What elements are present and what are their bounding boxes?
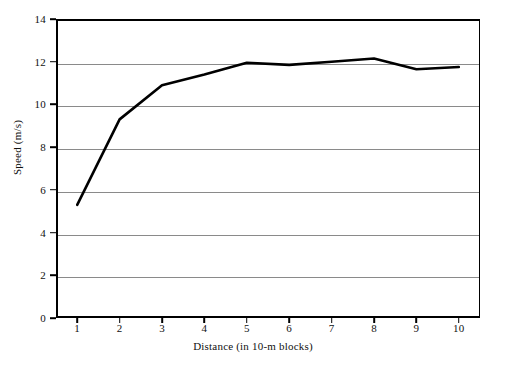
x-tick-mark-2	[119, 318, 121, 323]
x-tick-mark-7	[331, 318, 333, 323]
x-tick-mark-8	[373, 318, 375, 323]
x-tick-label-6: 6	[286, 322, 292, 334]
x-tick-mark-6	[288, 318, 290, 323]
x-tick-mark-10	[458, 318, 460, 323]
x-tick-label-10: 10	[453, 322, 464, 334]
x-tick-label-7: 7	[329, 322, 335, 334]
x-tick-mark-3	[161, 318, 163, 323]
x-tick-label-4: 4	[202, 322, 208, 334]
x-tick-mark-5	[246, 318, 248, 323]
x-tick-label-8: 8	[371, 322, 377, 334]
chart-screenshot: 02468101214 Speed (m/s) 12345678910 Dist…	[0, 0, 506, 365]
x-tick-label-9: 9	[414, 322, 420, 334]
x-tick-label-3: 3	[159, 322, 165, 334]
x-tick-label-1: 1	[74, 322, 80, 334]
x-tick-mark-1	[76, 318, 78, 323]
x-axis: 12345678910	[0, 0, 506, 365]
x-tick-label-2: 2	[117, 322, 123, 334]
x-tick-mark-9	[416, 318, 418, 323]
x-tick-mark-4	[204, 318, 206, 323]
x-tick-label-5: 5	[244, 322, 250, 334]
x-axis-title: Distance (in 10-m blocks)	[0, 340, 506, 352]
